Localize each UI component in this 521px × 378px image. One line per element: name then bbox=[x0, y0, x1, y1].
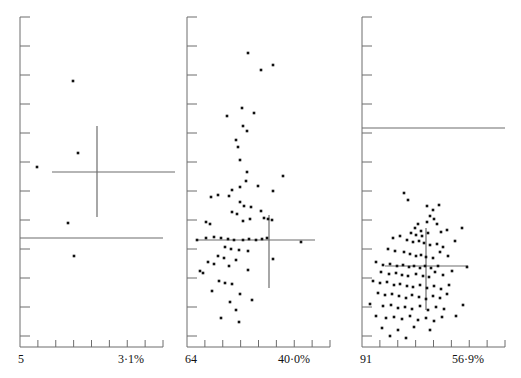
data-point bbox=[432, 295, 435, 298]
data-point bbox=[372, 280, 375, 283]
data-point bbox=[451, 270, 454, 273]
data-point bbox=[381, 327, 384, 330]
data-point bbox=[401, 318, 404, 321]
data-point bbox=[395, 272, 398, 275]
data-point bbox=[399, 283, 402, 286]
data-point bbox=[423, 242, 426, 245]
data-point bbox=[402, 264, 405, 267]
data-point bbox=[428, 276, 431, 279]
data-point bbox=[415, 255, 418, 258]
data-point bbox=[425, 298, 428, 301]
data-point bbox=[389, 263, 392, 266]
data-point bbox=[426, 205, 429, 208]
data-point bbox=[375, 261, 378, 264]
data-point bbox=[436, 223, 439, 226]
data-point bbox=[411, 308, 414, 311]
panel-3-plot bbox=[0, 0, 521, 378]
data-point bbox=[438, 204, 441, 207]
data-point bbox=[406, 239, 409, 242]
data-point bbox=[413, 326, 416, 329]
data-point bbox=[412, 241, 415, 244]
data-point bbox=[407, 275, 410, 278]
data-point bbox=[420, 230, 423, 233]
data-point bbox=[392, 237, 395, 240]
data-point bbox=[379, 282, 382, 285]
data-point bbox=[442, 246, 445, 249]
data-point bbox=[393, 316, 396, 319]
data-point bbox=[420, 254, 423, 257]
data-point bbox=[429, 329, 432, 332]
data-point bbox=[440, 288, 443, 291]
data-point bbox=[418, 240, 421, 243]
data-point bbox=[397, 329, 400, 332]
data-point bbox=[389, 335, 392, 338]
data-point bbox=[385, 317, 388, 320]
data-point bbox=[427, 309, 430, 312]
data-point bbox=[382, 305, 385, 308]
data-point bbox=[433, 320, 436, 323]
data-point bbox=[446, 229, 449, 232]
data-point bbox=[415, 234, 418, 237]
data-point bbox=[396, 265, 399, 268]
data-point bbox=[433, 285, 436, 288]
data-point bbox=[408, 266, 411, 269]
panel-3-x-right-label: 56·9% bbox=[452, 352, 484, 367]
data-point bbox=[387, 248, 390, 251]
data-point bbox=[405, 337, 408, 340]
data-point bbox=[417, 223, 420, 226]
data-point bbox=[417, 319, 420, 322]
data-point bbox=[447, 255, 450, 258]
figure-canvas: 5 3·1% 64 40·0% 91 56·9% bbox=[0, 0, 521, 378]
data-point bbox=[432, 257, 435, 260]
data-point bbox=[404, 306, 407, 309]
data-point bbox=[446, 293, 449, 296]
data-point bbox=[439, 297, 442, 300]
data-point bbox=[403, 192, 406, 195]
data-point bbox=[426, 287, 429, 290]
scatter-panel-3: 91 56·9% bbox=[0, 0, 175, 378]
data-point bbox=[406, 285, 409, 288]
data-point bbox=[414, 227, 417, 230]
data-point bbox=[377, 292, 380, 295]
data-point bbox=[439, 251, 442, 254]
data-point bbox=[409, 253, 412, 256]
data-point bbox=[429, 215, 432, 218]
data-point bbox=[435, 306, 438, 309]
data-point bbox=[411, 294, 414, 297]
data-point bbox=[412, 286, 415, 289]
data-point bbox=[455, 315, 458, 318]
data-point bbox=[418, 296, 421, 299]
data-point bbox=[388, 273, 391, 276]
data-point bbox=[466, 266, 469, 269]
data-point bbox=[398, 295, 401, 298]
data-point bbox=[454, 240, 457, 243]
data-point bbox=[409, 315, 412, 318]
data-point bbox=[391, 293, 394, 296]
data-point bbox=[415, 273, 418, 276]
data-point bbox=[397, 307, 400, 310]
data-point bbox=[375, 315, 378, 318]
panel-3-x-left-label: 91 bbox=[360, 352, 372, 367]
data-point bbox=[390, 304, 393, 307]
data-point bbox=[426, 221, 429, 224]
data-point bbox=[443, 308, 446, 311]
data-point bbox=[441, 316, 444, 319]
data-point bbox=[405, 297, 408, 300]
data-point bbox=[410, 232, 413, 235]
data-point bbox=[413, 265, 416, 268]
data-point bbox=[380, 271, 383, 274]
data-point bbox=[386, 281, 389, 284]
data-point bbox=[425, 256, 428, 259]
data-point bbox=[436, 243, 439, 246]
data-point bbox=[419, 267, 422, 270]
data-point bbox=[369, 303, 372, 306]
data-point bbox=[462, 304, 465, 307]
data-point bbox=[434, 271, 437, 274]
data-point bbox=[440, 231, 443, 234]
data-point bbox=[433, 218, 436, 221]
data-point bbox=[427, 232, 430, 235]
data-point bbox=[394, 250, 397, 253]
data-point bbox=[382, 264, 385, 267]
data-point bbox=[422, 275, 425, 278]
data-point bbox=[401, 274, 404, 277]
